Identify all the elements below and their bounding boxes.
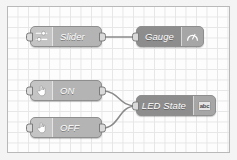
- node-on-output-port[interactable]: [99, 86, 106, 95]
- node-slider-label: Slider: [53, 31, 101, 42]
- node-gauge-input-port[interactable]: [132, 32, 139, 41]
- hand-click-icon: [31, 81, 53, 100]
- node-led-state-input-port[interactable]: [132, 101, 139, 110]
- node-off-input-port[interactable]: [26, 123, 33, 132]
- gauge-icon: [181, 27, 203, 46]
- node-off-label: OFF: [53, 122, 101, 133]
- abc-text-icon: abc: [193, 96, 215, 115]
- slider-icon: [31, 27, 53, 46]
- node-off[interactable]: OFF: [30, 117, 102, 138]
- node-slider[interactable]: Slider: [30, 26, 102, 47]
- hand-click-icon: [31, 118, 53, 137]
- node-slider-input-port[interactable]: [26, 32, 33, 41]
- node-gauge[interactable]: Gauge: [136, 26, 204, 47]
- node-gauge-label: Gauge: [137, 31, 181, 42]
- flow-editor-screenshot: Slider Gauge ON: [0, 0, 237, 160]
- node-led-state-label: LED State: [137, 100, 193, 111]
- node-on-label: ON: [53, 85, 101, 96]
- node-led-state[interactable]: LED State abc: [136, 95, 216, 116]
- node-on[interactable]: ON: [30, 80, 102, 101]
- node-on-input-port[interactable]: [26, 86, 33, 95]
- abc-text-icon-label: abc: [198, 101, 212, 111]
- flow-canvas-panel[interactable]: Slider Gauge ON: [7, 6, 230, 153]
- node-off-output-port[interactable]: [99, 123, 106, 132]
- node-slider-output-port[interactable]: [99, 32, 106, 41]
